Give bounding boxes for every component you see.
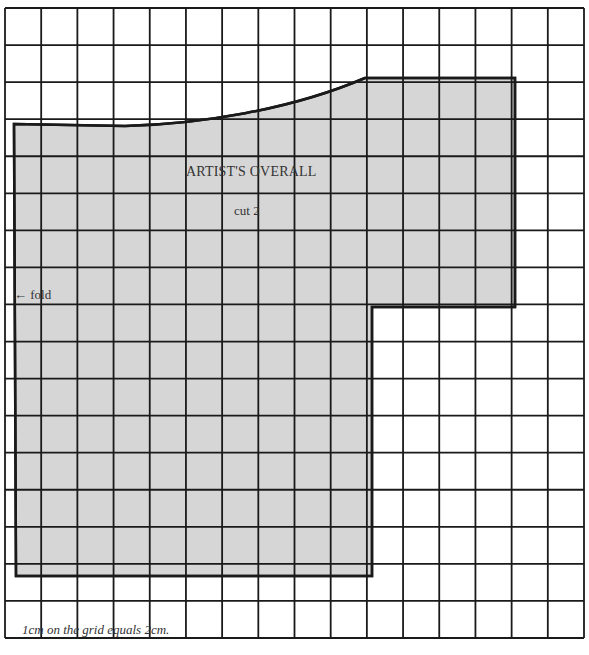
pattern-diagram xyxy=(0,0,589,655)
cut-instruction: cut 2 xyxy=(234,203,260,219)
scale-caption: 1cm on the grid equals 2cm. xyxy=(22,622,169,638)
fold-marker: ← fold xyxy=(14,287,51,303)
pattern-title: ARTIST'S OVERALL xyxy=(186,164,317,180)
